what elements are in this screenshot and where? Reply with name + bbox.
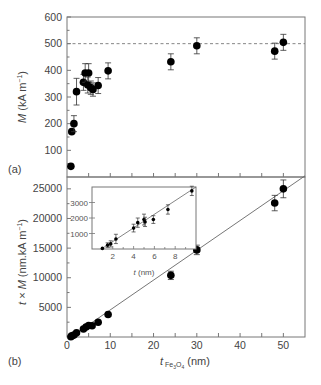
y-tick-label: 100 <box>44 144 62 156</box>
y-tick-label: 5000 <box>39 301 63 313</box>
x-axis-title: t Fe3O4 (nm) <box>160 355 210 370</box>
data-point <box>271 199 279 207</box>
inset-x-axis-title: t (nm) <box>134 268 155 277</box>
panel-b-label: (b) <box>8 355 21 367</box>
x-tick-label: 10 <box>104 339 116 351</box>
panel-a-frame <box>67 17 305 177</box>
panel-b-x-ticks: 01020304050 <box>64 333 289 351</box>
panel-a-label: (a) <box>8 163 21 175</box>
data-point <box>67 163 75 171</box>
data-point <box>167 58 175 66</box>
inset-data-point <box>114 237 118 241</box>
x-tick-label: 0 <box>64 339 70 351</box>
x-tick-label: 30 <box>191 339 203 351</box>
y-tick-label: 200 <box>44 117 62 129</box>
inset-x-tick-label: 4 <box>131 252 136 261</box>
data-point <box>271 47 279 55</box>
inset-x-tick-label: 8 <box>173 252 178 261</box>
panel-b-y-ticks: 500010000150002000025000 <box>33 182 71 322</box>
panel-a-data-points <box>67 34 287 170</box>
data-point <box>73 329 81 337</box>
inset-data-point <box>101 247 105 251</box>
inset-x-tick-label: 6 <box>152 252 157 261</box>
inset-data-point <box>143 220 147 224</box>
inset-y-tick-label: 3000 <box>70 199 88 208</box>
panel-b-y-axis-title: t × M (nm.kA m−1) <box>16 219 28 305</box>
figure: 100200300400500600 (a) M (kA m−1) 500010… <box>0 0 321 385</box>
x-tick-label: 40 <box>234 339 246 351</box>
inset-data-point <box>109 242 113 246</box>
data-point <box>70 120 78 128</box>
panel-b: 500010000150002000025000 01020304050 (b)… <box>8 176 305 370</box>
data-point <box>167 272 175 280</box>
inset-data-point <box>132 226 136 230</box>
data-point <box>280 185 288 193</box>
data-point <box>94 82 102 90</box>
y-tick-label: 600 <box>44 11 62 23</box>
inset-data-point <box>136 221 140 225</box>
data-point <box>104 67 112 75</box>
inset-y-tick-label: 2000 <box>70 214 88 223</box>
data-point <box>85 69 93 77</box>
data-point <box>193 42 201 50</box>
inset-data-point <box>152 218 156 222</box>
inset-x-tick-label: 2 <box>111 252 116 261</box>
inset-data-point <box>166 208 170 212</box>
inset-data-point <box>106 243 110 247</box>
x-tick-label: 20 <box>148 339 160 351</box>
data-point <box>73 88 81 96</box>
panel-a: 100200300400500600 (a) M (kA m−1) <box>8 11 305 178</box>
y-tick-label: 15000 <box>33 242 62 254</box>
panel-a-y-axis-title: M (kA m−1) <box>16 71 28 123</box>
inset-y-tick-label: 1000 <box>70 230 88 239</box>
y-tick-label: 20000 <box>33 212 62 224</box>
panel-a-x-ticks <box>89 173 284 177</box>
inset-y-ticks: 100020003000 <box>70 199 95 239</box>
inset-data-point <box>190 189 194 193</box>
data-point <box>94 318 102 326</box>
y-tick-label: 10000 <box>33 271 62 283</box>
y-tick-label: 25000 <box>33 182 62 194</box>
x-tick-label: 50 <box>278 339 290 351</box>
data-point <box>104 311 112 319</box>
y-tick-label: 300 <box>44 91 62 103</box>
y-tick-label: 400 <box>44 64 62 76</box>
data-point <box>280 39 288 47</box>
y-tick-label: 500 <box>44 37 62 49</box>
